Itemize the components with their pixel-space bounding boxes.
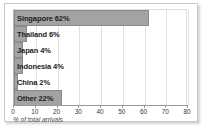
tick-label: 80: [183, 108, 190, 115]
bar-row[interactable]: Thailand 6%: [14, 26, 186, 42]
bar-label: China 2%: [17, 74, 50, 90]
chart-frame: Singapore 62%Thailand 6%Japan 4%Indonesi…: [4, 3, 198, 122]
tick-label: 50: [118, 108, 125, 115]
bar-row[interactable]: Other 22%: [14, 90, 186, 106]
bar-label: Other 22%: [17, 90, 53, 106]
tick-label: 40: [96, 108, 103, 115]
bar-label: Thailand 6%: [17, 26, 60, 42]
bar-row[interactable]: Japan 4%: [14, 42, 186, 58]
bar-row[interactable]: Singapore 62%: [14, 10, 186, 26]
bar-label: Singapore 62%: [17, 10, 69, 26]
tick-label: 70: [162, 108, 169, 115]
tick-label: 30: [75, 108, 82, 115]
bar-row[interactable]: China 2%: [14, 74, 186, 90]
tick-label: 60: [140, 108, 147, 115]
bar-label: Indonesia 4%: [17, 58, 64, 74]
gridline: [188, 10, 189, 105]
tick-label: 0: [11, 108, 15, 115]
bar-label: Japan 4%: [17, 42, 51, 58]
tick-label: 10: [31, 108, 38, 115]
plot-area: Singapore 62%Thailand 6%Japan 4%Indonesi…: [13, 9, 187, 105]
bar-row[interactable]: Indonesia 4%: [14, 58, 186, 74]
tick-label: 20: [53, 108, 60, 115]
x-axis-caption: % of total arrivals: [13, 116, 63, 123]
